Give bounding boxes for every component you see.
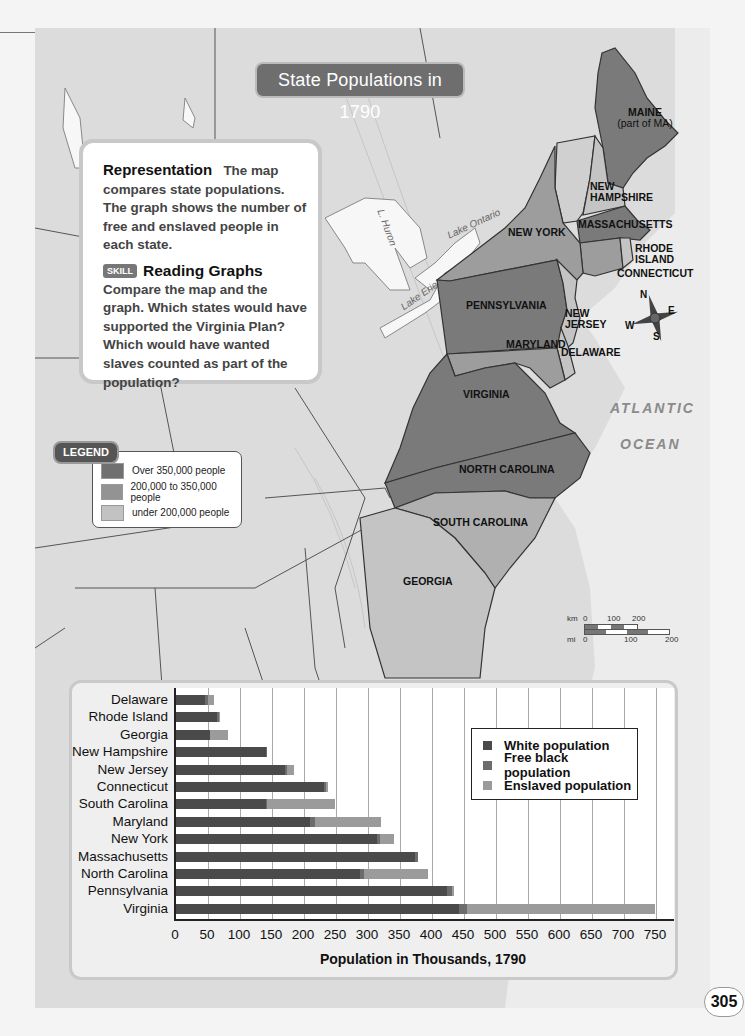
legend-row-200k-350k: 200,000 to 350,000 people [101, 481, 241, 502]
bar-massachusetts [176, 852, 418, 862]
bar-segment [364, 869, 429, 879]
scale-bar: km 0 100 200 mi 0 100 200 [567, 614, 667, 646]
compass-s: S [653, 331, 660, 342]
bar-new-hampshire [176, 747, 267, 757]
category-label: New York [58, 831, 168, 846]
bar-segment [380, 834, 393, 844]
legend-label: under 200,000 people [132, 507, 229, 518]
gridline [560, 688, 561, 919]
legend-swatch-white [483, 741, 492, 750]
x-tick-label: 750 [635, 927, 675, 942]
info-box: Representation The map compares state po… [83, 143, 318, 380]
gridline [496, 688, 497, 919]
legend-label: Over 350,000 people [132, 465, 225, 476]
category-label: Massachusetts [58, 849, 168, 864]
info-heading: Representation [103, 161, 212, 178]
bar-rhode-island [176, 712, 219, 722]
label-atlantic: ATLANTIC [610, 400, 695, 416]
category-label: South Carolina [58, 796, 168, 811]
bar-segment [219, 712, 220, 722]
bar-segment [267, 799, 335, 809]
page-number: 305 [704, 987, 744, 1017]
bar-segment [467, 904, 655, 914]
skill-text: Compare the map and the graph. Which sta… [103, 281, 308, 393]
bar-segment [176, 747, 266, 757]
category-label: Pennsylvania [58, 883, 168, 898]
chart-legend-free-black: Free black population [483, 755, 637, 775]
skill-title: Reading Graphs [143, 262, 263, 281]
bar-segment [176, 886, 447, 896]
bar-georgia [176, 730, 228, 740]
label-north-carolina: NORTH CAROLINA [459, 464, 559, 475]
category-label: Virginia [58, 901, 168, 916]
category-label: Delaware [58, 692, 168, 707]
gridline [528, 688, 529, 919]
label-new-jersey: NEW JERSEY [565, 308, 607, 330]
label-south-carolina: SOUTH CAROLINA [433, 517, 533, 528]
bar-segment [326, 782, 328, 792]
bar-segment [266, 747, 267, 757]
x-axis-label: Population in Thousands, 1790 [174, 951, 672, 967]
legend-swatch-light [101, 505, 124, 521]
legend-label: 200,000 to 350,000 people [131, 481, 242, 503]
bar-north-carolina [176, 869, 428, 879]
legend-row-over-350k: Over 350,000 people [101, 460, 241, 481]
bar-segment [210, 730, 229, 740]
bar-new-jersey [176, 765, 294, 775]
bar-segment [176, 695, 205, 705]
legend-swatch-dark [101, 463, 124, 479]
label-georgia: GEORGIA [403, 576, 473, 587]
gridline [400, 688, 401, 919]
bar-segment [452, 886, 455, 896]
gridline [464, 688, 465, 919]
compass-e: E [668, 305, 675, 316]
label-new-york: NEW YORK [508, 227, 578, 238]
chart-legend: White population Free black population E… [471, 728, 638, 800]
label-connecticut: CONNECTICUT [617, 268, 707, 279]
category-label: North Carolina [58, 866, 168, 881]
skill-row: SKILL Reading Graphs [103, 262, 308, 281]
bar-segment [176, 712, 217, 722]
bar-virginia [176, 904, 655, 914]
bar-segment [315, 817, 381, 827]
bar-pennsylvania [176, 886, 454, 896]
label-massachusetts: MASSACHUSETTS [578, 219, 673, 230]
bar-segment [287, 765, 294, 775]
skill-badge: SKILL [103, 264, 137, 278]
bar-maryland [176, 817, 381, 827]
legend-swatch-free-black [483, 761, 492, 770]
bar-segment [176, 799, 266, 809]
bar-connecticut [176, 782, 328, 792]
label-maine: MAINE(part of MA) [615, 107, 675, 129]
bar-segment [176, 834, 377, 844]
page-rule [0, 32, 36, 33]
bar-new-york [176, 834, 394, 844]
map-title: State Populations in 1790 [257, 64, 463, 96]
bar-south-carolina [176, 799, 335, 809]
bar-segment [176, 730, 210, 740]
legend-title: LEGEND [53, 441, 119, 464]
gridline [432, 688, 433, 919]
bar-segment [176, 782, 324, 792]
legend-swatch-enslaved [483, 781, 492, 790]
label-virginia: VIRGINIA [463, 389, 533, 400]
category-label: New Hampshire [58, 744, 168, 759]
gridline [368, 688, 369, 919]
label-pennsylvania: PENNSYLVANIA [466, 300, 561, 311]
category-label: Connecticut [58, 779, 168, 794]
bar-segment [176, 869, 360, 879]
gridline [656, 688, 657, 919]
legend-row-under-200k: under 200,000 people [101, 502, 241, 523]
bar-delaware [176, 695, 214, 705]
gridline [336, 688, 337, 919]
compass-n: N [640, 289, 647, 300]
compass-w: W [625, 320, 634, 331]
bar-segment [208, 695, 214, 705]
gridline [624, 688, 625, 919]
bar-segment [459, 904, 467, 914]
label-rhode-island: RHODE ISLAND [635, 243, 685, 265]
info-paragraph: Representation The map compares state po… [103, 161, 308, 255]
label-delaware: DELAWARE [561, 347, 631, 358]
bar-segment [176, 852, 415, 862]
bar-segment [176, 904, 459, 914]
